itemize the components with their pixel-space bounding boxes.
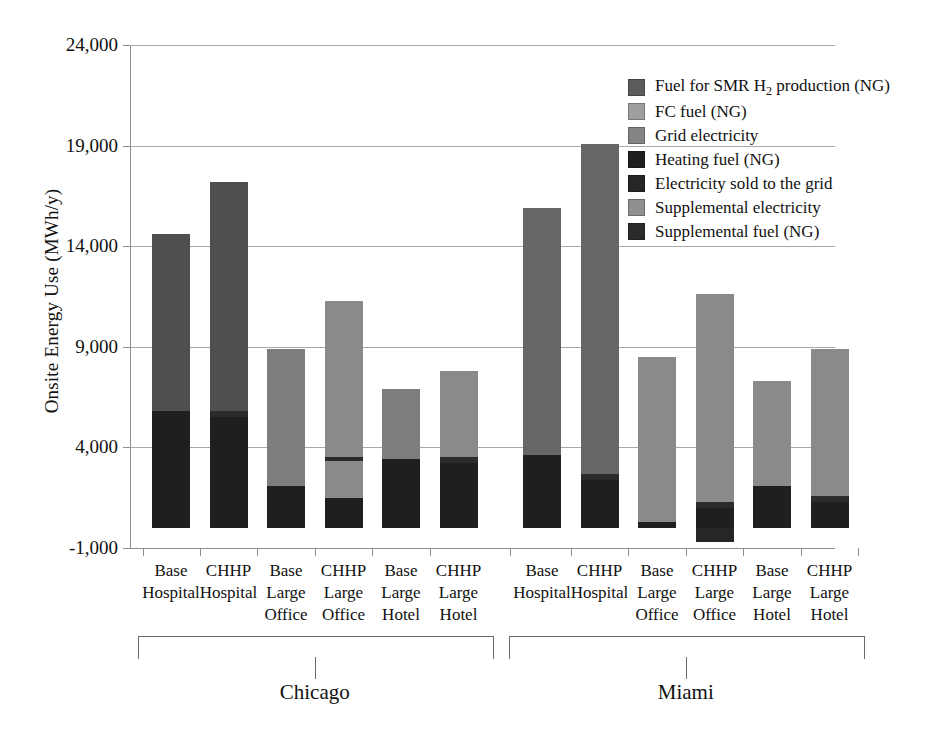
legend-label: Supplemental electricity [655,198,821,218]
bar-segment [382,389,420,459]
legend-item[interactable]: FC fuel (NG) [628,100,925,123]
legend-item[interactable]: Supplemental electricity [628,196,925,219]
legend-item[interactable]: Fuel for SMR H2 production (NG) [628,76,925,99]
x-tick-mark [743,548,744,556]
legend-label: FC fuel (NG) [655,102,747,122]
x-tick-mark [628,548,629,556]
x-axis-label-line: CHHP [416,560,502,582]
bar-1[interactable] [210,45,248,548]
x-tick-mark [801,548,802,556]
y-tick-label: 9,000 [8,336,118,358]
legend-label: Grid electricity [655,126,758,146]
x-axis-labels: BaseHospitalCHHPHospitalBaseLargeOfficeC… [130,560,835,630]
group-braces: ChicagoMiami [130,636,835,676]
bar-segment [696,294,734,501]
x-tick-mark [257,548,258,556]
legend-label: Fuel for SMR H2 production (NG) [655,76,890,99]
legend-swatch-icon [628,79,645,96]
bar-segment [638,522,676,528]
x-axis-label-line: Large [787,582,873,604]
bar-segment [581,480,619,528]
bar-segment [581,144,619,474]
bar-segment [523,208,561,455]
x-axis-label: CHHPLargeHotel [416,560,502,626]
group-brace-pointer [315,657,316,679]
bar-segment [753,486,791,528]
x-tick-mark [686,548,687,556]
bar-segment [811,496,849,502]
y-tick-mark [123,246,130,247]
bar-segment [382,459,420,527]
x-tick-mark [571,548,572,556]
bar-segment [638,357,676,522]
bar-segment [152,234,190,411]
legend-swatch-icon [628,127,645,144]
bar-segment [325,457,363,461]
axis-baseline [130,548,835,549]
legend-item[interactable]: Heating fuel (NG) [628,148,925,171]
legend-label: Heating fuel (NG) [655,150,780,170]
x-axis-label-line: Hotel [416,604,502,626]
y-tick-mark [123,146,130,147]
y-tick-mark [123,447,130,448]
group-brace-pointer [686,657,687,679]
group-label-miami: Miami [449,680,923,705]
y-tick-label: 4,000 [8,436,118,458]
bar-segment [753,381,791,486]
x-tick-mark [315,548,316,556]
x-axis-label: CHHPLargeHotel [787,560,873,626]
legend-label: Supplemental fuel (NG) [655,222,819,242]
y-tick-mark [123,347,130,348]
bar-segment [325,301,363,458]
legend-item[interactable]: Electricity sold to the grid [628,172,925,195]
group-brace [138,636,494,659]
bar-segment [267,486,305,528]
bar-segment [696,508,734,528]
y-tick-mark [123,548,130,549]
y-tick-label: 19,000 [8,135,118,157]
bar-segment [210,411,248,417]
bar-3[interactable] [325,45,363,548]
bar-5[interactable] [440,45,478,548]
bar-segment [523,455,561,527]
bar-segment [325,461,363,497]
bar-segment [811,502,849,528]
y-tick-label: -1,000 [8,537,118,559]
bar-segment [210,182,248,411]
bar-0[interactable] [152,45,190,548]
bar-7[interactable] [581,45,619,548]
bar-4[interactable] [382,45,420,548]
group-brace [509,636,865,659]
legend-swatch-icon [628,175,645,192]
bar-segment [267,349,305,486]
bar-segment [440,463,478,527]
legend-item[interactable]: Supplemental fuel (NG) [628,220,925,243]
x-tick-mark [858,548,859,556]
legend-item[interactable]: Grid electricity [628,124,925,147]
y-tick-mark [123,45,130,46]
bar-segment [325,498,363,528]
x-axis-label-line: CHHP [787,560,873,582]
x-axis-label-line: Hotel [787,604,873,626]
bar-segment [440,371,478,458]
y-tick-label: 14,000 [8,235,118,257]
energy-use-bar-chart: Onsite Energy Use (MWh/y) -1,0004,0009,0… [0,0,925,752]
legend-swatch-icon [628,103,645,120]
bar-segment [581,474,619,480]
legend-swatch-icon [628,151,645,168]
bar-segment [811,349,849,496]
bar-segment [696,528,734,542]
bar-segment [440,457,478,463]
x-axis-label-line: Large [416,582,502,604]
bar-segment [152,411,190,528]
bar-6[interactable] [523,45,561,548]
y-tick-label: 24,000 [8,34,118,56]
bar-2[interactable] [267,45,305,548]
legend-swatch-icon [628,223,645,240]
x-tick-mark [200,548,201,556]
x-tick-mark [143,548,144,556]
legend-swatch-icon [628,199,645,216]
bar-segment [696,502,734,508]
x-tick-mark [372,548,373,556]
x-tick-mark [510,548,511,556]
